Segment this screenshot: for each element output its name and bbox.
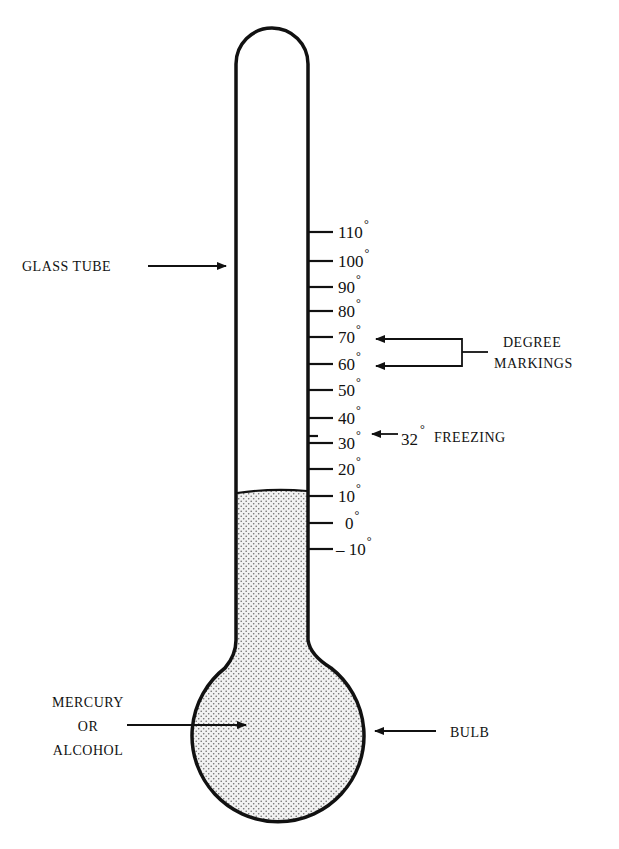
- liquid-label-line2: OR: [78, 719, 99, 734]
- freezing-label: FREEZING: [434, 430, 506, 445]
- degree-symbol: °: [356, 272, 361, 286]
- scale-tick-label: 10: [338, 487, 355, 506]
- degree-symbol: °: [356, 296, 361, 310]
- degree-symbol: °: [355, 508, 360, 522]
- glass-tube-label: GLASS TUBE: [22, 259, 111, 274]
- bulb-label: BULB: [450, 725, 489, 740]
- freezing-degree-symbol: °: [420, 422, 425, 436]
- degree-symbol: °: [365, 246, 370, 260]
- scale-tick-label: 20: [338, 460, 355, 479]
- scale-tick-label: 50: [338, 381, 355, 400]
- degree-symbol: °: [356, 403, 361, 417]
- degree-symbol: °: [367, 534, 372, 548]
- scale-tick-label: 80: [338, 302, 355, 321]
- scale-tick-label: 40: [338, 409, 355, 428]
- freezing-value: 32: [401, 430, 418, 449]
- thermometer-diagram: 110°100°90°80°70°60°50°40°30°20°10°0°– 1…: [0, 0, 619, 849]
- degree-markings-label-line2: MARKINGS: [494, 356, 573, 371]
- degree-symbol: °: [356, 322, 361, 336]
- degree-symbol: °: [356, 481, 361, 495]
- degree-symbol: °: [356, 428, 361, 442]
- degree-scale: 110°100°90°80°70°60°50°40°30°20°10°0°– 1…: [309, 217, 372, 559]
- degree-symbol: °: [356, 454, 361, 468]
- degree-markings-bracket: [376, 338, 488, 367]
- degree-symbol: °: [356, 349, 361, 363]
- scale-tick-label: 90: [338, 278, 355, 297]
- degree-symbol: °: [364, 217, 369, 231]
- scale-tick-label: 60: [338, 355, 355, 374]
- liquid-label-line1: MERCURY: [52, 695, 124, 710]
- scale-tick-label: 100: [338, 252, 364, 271]
- liquid-label-line3: ALCOHOL: [53, 743, 123, 758]
- scale-tick-label: 0: [345, 514, 354, 533]
- scale-tick-label: 70: [338, 328, 355, 347]
- scale-tick-label: 30: [338, 434, 355, 453]
- degree-markings-label-line1: DEGREE: [503, 335, 561, 350]
- scale-tick-label: 110: [338, 223, 363, 242]
- scale-tick-label: – 10: [335, 540, 366, 559]
- degree-symbol: °: [356, 375, 361, 389]
